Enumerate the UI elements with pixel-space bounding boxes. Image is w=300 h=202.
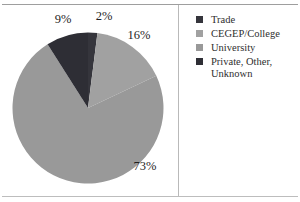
slice-label-university: 73% (134, 159, 157, 174)
legend-label-trade: Trade (211, 14, 295, 26)
slice-label-cegep-college: 16% (128, 28, 151, 43)
legend-swatch-university-icon (196, 44, 203, 51)
legend-item-private-other-unknown: Private, Other, Unknown (196, 56, 295, 80)
legend-label-university: University (211, 42, 295, 54)
legend-swatch-trade-icon (196, 16, 203, 23)
legend-swatch-cegep-college-icon (196, 30, 203, 37)
legend: Trade CEGEP/College University Private, … (196, 14, 295, 82)
legend-swatch-private-other-unknown-icon (196, 58, 203, 65)
slice-label-private-other-unknown: 9% (55, 12, 72, 27)
legend-item-trade: Trade (196, 14, 295, 26)
pie-chart-figure: 2% 16% 73% 9% Trade CEGEP/College Univer… (0, 0, 300, 202)
legend-label-private-other-unknown: Private, Other, Unknown (211, 56, 295, 80)
legend-label-cegep-college: CEGEP/College (211, 28, 295, 40)
legend-item-cegep-college: CEGEP/College (196, 28, 295, 40)
slice-label-trade: 2% (96, 9, 113, 24)
legend-item-university: University (196, 42, 295, 54)
